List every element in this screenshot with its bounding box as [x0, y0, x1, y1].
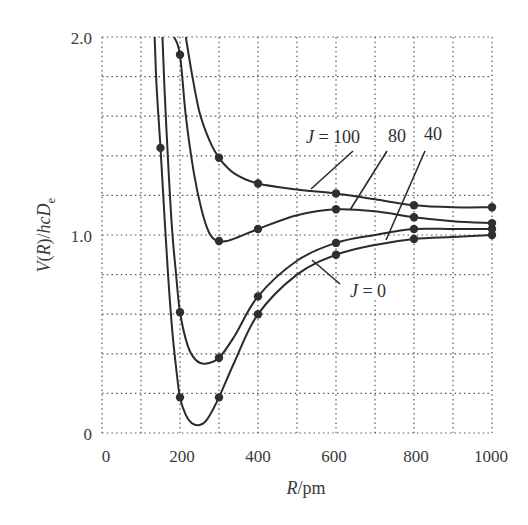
x-tick-800: 800: [403, 447, 429, 466]
data-point-j40: [410, 225, 418, 233]
data-point-j80: [215, 237, 223, 245]
svg-text:J = 100: J = 100: [306, 127, 360, 147]
svg-text:J = 0: J = 0: [350, 281, 386, 301]
grid-lines: [102, 37, 492, 433]
x-axis-label: R/pm: [285, 478, 325, 498]
x-tick-400: 400: [245, 447, 271, 466]
data-point-j0: [332, 251, 340, 259]
data-point-j100: [254, 179, 262, 187]
y-tick-0: 0: [84, 425, 93, 444]
data-point-j40: [254, 292, 262, 300]
x-tick-0: 0: [102, 447, 111, 466]
data-point-j80: [410, 213, 418, 221]
curve-j40: [162, 37, 492, 364]
data-point-j80: [488, 219, 496, 227]
data-point-j0: [410, 235, 418, 243]
svg-text:80: 80: [388, 126, 406, 146]
data-point-j80: [332, 205, 340, 213]
data-point-j0: [176, 393, 184, 401]
curves: [155, 37, 492, 425]
data-point-j0: [254, 310, 262, 318]
y-axis-label: V(R)/hcDe: [34, 197, 58, 272]
data-point-j100: [332, 189, 340, 197]
x-axis-label-var: R: [285, 478, 297, 498]
leader-line: [311, 151, 353, 189]
data-point-j100: [410, 201, 418, 209]
data-point-j40: [176, 308, 184, 316]
x-tick-200: 200: [169, 447, 195, 466]
data-point-j40: [215, 354, 223, 362]
svg-text:40: 40: [424, 124, 442, 144]
y-tick-1: 1.0: [71, 227, 92, 246]
annotation-j100: J = 100: [302, 121, 364, 189]
annotation-j0: J = 0: [312, 260, 394, 301]
data-point-j80: [254, 225, 262, 233]
data-point-j0: [156, 144, 164, 152]
data-point-j0: [215, 393, 223, 401]
y-tick-2: 2.0: [71, 29, 92, 48]
x-axis-label-unit: /pm: [297, 478, 325, 498]
potential-energy-chart: 2.0 1.0 0 0 200 400 600 800 1000 R/pm V(…: [0, 0, 528, 525]
data-point-j80: [176, 51, 184, 59]
data-point-j40: [332, 239, 340, 247]
x-tick-1000: 1000: [474, 447, 508, 466]
data-point-j100: [215, 154, 223, 162]
curve-j0: [155, 37, 492, 425]
leader-line: [386, 151, 425, 240]
data-point-j100: [488, 203, 496, 211]
x-tick-600: 600: [321, 447, 347, 466]
